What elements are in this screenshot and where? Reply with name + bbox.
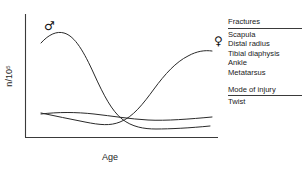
legend-item-metatarsus: Metatarsus xyxy=(228,68,302,78)
legend-item-twist: Twist xyxy=(228,97,302,107)
legend-item-ankle: Ankle xyxy=(228,58,302,68)
legend-spacer xyxy=(228,78,302,85)
male-symbol: ♂ xyxy=(44,19,55,33)
female-symbol: ♀ xyxy=(214,34,223,48)
legend-item-tibial-diaphysis: Tibial diaphysis xyxy=(228,49,302,59)
legend-heading-fractures: Fractures xyxy=(228,17,302,29)
figure-container: ♂ ♀ Age n/10⁵ Fractures Scapula Distal r… xyxy=(0,0,307,174)
series-line-male xyxy=(41,32,210,129)
x-axis-label: Age xyxy=(102,152,118,162)
legend: Fractures Scapula Distal radius Tibial d… xyxy=(228,17,302,107)
legend-item-scapula: Scapula xyxy=(228,30,302,40)
legend-item-distal-radius: Distal radius xyxy=(228,39,302,49)
y-axis-label: n/10⁵ xyxy=(4,65,14,87)
legend-heading-mode-of-injury: Mode of injury xyxy=(228,85,302,97)
series-line-female xyxy=(41,51,212,125)
